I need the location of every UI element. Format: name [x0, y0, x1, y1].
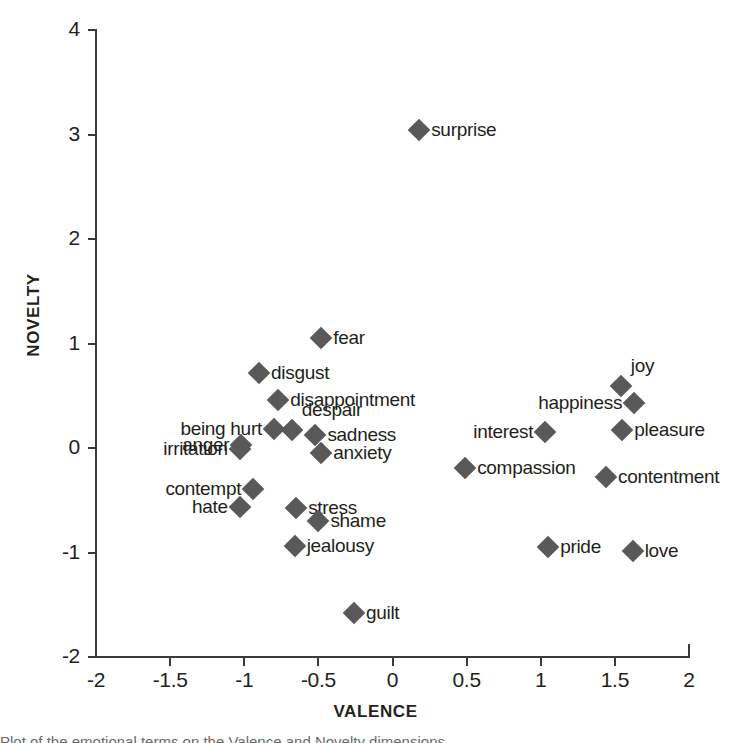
x-tick-label: 1: [501, 668, 581, 692]
data-point-label: anxiety: [333, 443, 391, 462]
x-tick-label: 2: [649, 668, 729, 692]
x-tick-label: 0.5: [427, 668, 507, 692]
y-tick-label: 0: [8, 435, 80, 459]
data-point-label: surprise: [431, 120, 496, 139]
plot-area: surprisefeardisgustjoydisappointmenthapp…: [96, 30, 689, 657]
diamond-marker-icon: [283, 535, 306, 558]
y-tick-label: 2: [8, 226, 80, 250]
data-point-label: joy: [631, 356, 654, 375]
diamond-marker-icon: [454, 457, 477, 480]
diamond-marker-icon: [248, 361, 271, 384]
y-tick-label: 3: [8, 122, 80, 146]
x-tick-mark: [317, 657, 319, 666]
y-tick-mark: [88, 29, 96, 31]
x-tick-label: -1: [204, 668, 284, 692]
x-axis-title: VALENCE: [0, 702, 751, 722]
data-point-label: shame: [330, 511, 386, 530]
data-point-label: happiness: [538, 393, 622, 412]
data-point-label: jealousy: [307, 536, 374, 555]
y-tick-label: 4: [8, 17, 80, 41]
data-point-label: despair: [302, 400, 362, 419]
y-tick-label: -1: [8, 540, 80, 564]
data-point-label: irritation: [163, 439, 228, 458]
diamond-marker-icon: [534, 421, 557, 444]
figure-caption: Plot of the emotional terms on the Valen…: [0, 733, 751, 743]
data-point-label: pleasure: [634, 420, 704, 439]
x-tick-mark: [392, 657, 394, 666]
x-tick-label: -2: [56, 668, 136, 692]
x-tick-label: 1.5: [575, 668, 655, 692]
x-tick-label: -0.5: [278, 668, 358, 692]
y-tick-label: -2: [8, 644, 80, 668]
diamond-marker-icon: [280, 419, 303, 442]
data-point-label: contempt: [165, 479, 241, 498]
x-tick-mark: [243, 657, 245, 666]
data-point-label: guilt: [366, 603, 399, 622]
x-tick-mark: [540, 657, 542, 666]
diamond-marker-icon: [310, 327, 333, 350]
data-point-label: love: [645, 541, 679, 560]
y-tick-label: 1: [8, 331, 80, 355]
diamond-marker-icon: [267, 389, 290, 412]
diamond-marker-icon: [595, 466, 618, 489]
y-tick-mark: [88, 238, 96, 240]
data-point-label: compassion: [477, 458, 575, 477]
data-point-label: disgust: [271, 363, 329, 382]
diamond-marker-icon: [242, 477, 265, 500]
diamond-marker-icon: [343, 602, 366, 625]
x-tick-label: -1.5: [130, 668, 210, 692]
diamond-marker-icon: [285, 496, 308, 519]
x-tick-mark: [169, 657, 171, 666]
y-tick-mark: [88, 447, 96, 449]
diamond-marker-icon: [537, 536, 560, 559]
diamond-marker-icon: [621, 540, 644, 563]
diamond-marker-icon: [408, 119, 431, 142]
y-axis-title: NOVELTY: [24, 235, 44, 395]
data-point-label: contentment: [618, 467, 719, 486]
scatter-plot-figure: 43210-1-2 -2-1.5-1-0.500.511.52 surprise…: [0, 0, 751, 743]
data-point-label: interest: [473, 422, 533, 441]
data-point-label: pride: [560, 537, 601, 556]
diamond-marker-icon: [623, 392, 646, 415]
x-tick-label: 0: [353, 668, 433, 692]
x-tick-mark: [466, 657, 468, 666]
y-tick-mark: [88, 134, 96, 136]
data-point-label: hate: [192, 497, 228, 516]
data-point-label: fear: [333, 328, 365, 347]
y-tick-mark: [88, 552, 96, 554]
y-tick-mark: [88, 343, 96, 345]
x-tick-mark: [614, 657, 616, 666]
diamond-marker-icon: [611, 419, 634, 442]
